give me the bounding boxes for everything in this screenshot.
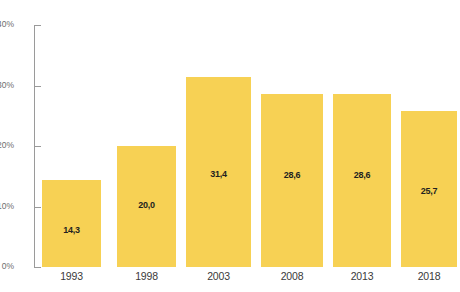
x-axis-label-2003: 2003 — [186, 270, 251, 282]
y-axis-tick-30: 30% — [0, 86, 44, 87]
x-axis-label-1993: 1993 — [42, 270, 101, 282]
bar-value-1998: 20,0 — [117, 200, 176, 210]
bar-2018: 25,7 — [401, 111, 457, 267]
y-axis-tick-label-30: 30% — [0, 80, 14, 90]
y-axis-tick-20: 20% — [0, 146, 44, 147]
bar-2003: 31,4 — [186, 77, 251, 267]
bar-value-2008: 28,6 — [261, 170, 323, 180]
bar-value-2013: 28,6 — [333, 170, 391, 180]
y-axis-tick-label-40: 40% — [0, 19, 14, 29]
y-axis-tick-10: 10% — [0, 207, 44, 208]
y-axis-tick-label-0: 0% — [2, 261, 14, 271]
y-axis-tick-mark-0 — [34, 267, 41, 268]
y-axis-tick-label-10: 10% — [0, 201, 14, 211]
bar-chart: 40% 30% 20% 10% 0% 14,3 20,0 31,4 — [0, 0, 460, 292]
y-axis-tick-label-20: 20% — [0, 140, 14, 150]
y-axis-tick-40: 40% — [0, 25, 44, 26]
bar-2008: 28,6 — [261, 94, 323, 267]
bar-value-2018: 25,7 — [401, 186, 457, 196]
y-axis-tick-0: 0% — [0, 267, 44, 268]
x-axis-label-2018: 2018 — [401, 270, 457, 282]
bar-1993: 14,3 — [42, 180, 101, 267]
y-axis-tick-mark-30 — [34, 86, 41, 87]
bar-value-1993: 14,3 — [42, 225, 101, 235]
y-axis-tick-mark-40 — [34, 25, 41, 26]
x-axis-label-1998: 1998 — [117, 270, 176, 282]
bar-1998: 20,0 — [117, 146, 176, 267]
x-axis-label-2008: 2008 — [261, 270, 323, 282]
y-axis-tick-mark-10 — [34, 207, 41, 208]
bar-value-2003: 31,4 — [186, 169, 251, 179]
plot-area: 40% 30% 20% 10% 0% 14,3 20,0 31,4 — [0, 0, 460, 292]
x-axis-label-2013: 2013 — [333, 270, 391, 282]
y-axis-tick-mark-20 — [34, 146, 41, 147]
bar-2013: 28,6 — [333, 94, 391, 267]
